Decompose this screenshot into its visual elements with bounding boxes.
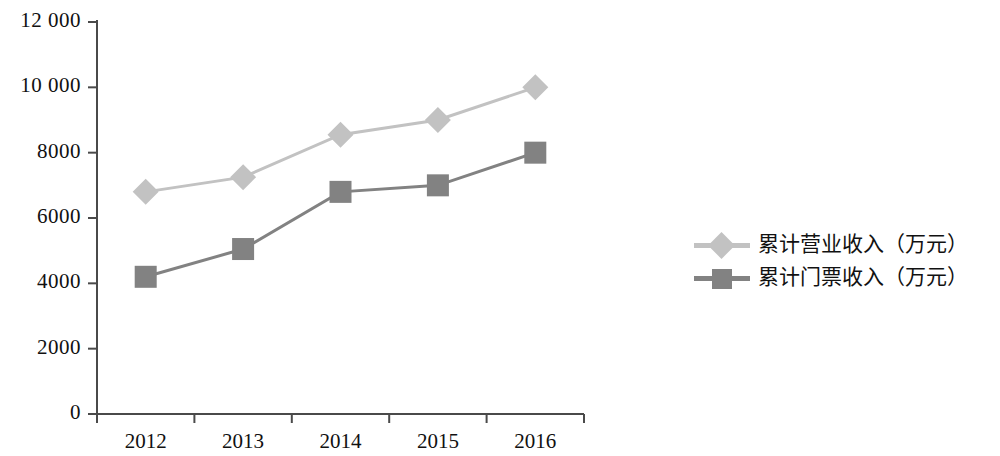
legend-item-0[interactable]: 累计营业收入（万元） bbox=[694, 228, 1000, 261]
chart-legend: 累计营业收入（万元） 累计门票收入（万元） bbox=[694, 228, 1000, 294]
legend-marker-diamond-icon bbox=[694, 232, 750, 258]
line-chart: 0200040006000800010 00012 000 2012201320… bbox=[0, 0, 1000, 456]
series-line-1 bbox=[146, 153, 536, 277]
legend-label-0: 累计营业收入（万元） bbox=[750, 233, 968, 255]
x-axis-ticks bbox=[97, 414, 584, 423]
y-tick-label: 10 000 bbox=[0, 73, 81, 98]
legend-item-1[interactable]: 累计门票收入（万元） bbox=[694, 261, 1000, 294]
data-point-diamond[interactable] bbox=[133, 179, 159, 205]
data-point-diamond[interactable] bbox=[328, 122, 354, 148]
y-tick-label: 8000 bbox=[0, 139, 81, 164]
series-markers bbox=[133, 74, 549, 287]
y-tick-label: 6000 bbox=[0, 204, 81, 229]
data-point-square[interactable] bbox=[232, 238, 254, 260]
y-axis-ticks bbox=[88, 22, 97, 414]
y-tick-label: 12 000 bbox=[0, 8, 81, 33]
y-tick-label: 0 bbox=[0, 400, 81, 425]
data-point-diamond[interactable] bbox=[522, 74, 548, 100]
data-point-square[interactable] bbox=[330, 181, 352, 203]
y-tick-label: 2000 bbox=[0, 335, 81, 360]
legend-label-1: 累计门票收入（万元） bbox=[750, 266, 968, 288]
data-point-diamond[interactable] bbox=[230, 164, 256, 190]
legend-marker-square-icon bbox=[694, 265, 750, 291]
x-tick-label: 2016 bbox=[475, 429, 595, 454]
data-point-square[interactable] bbox=[427, 174, 449, 196]
y-tick-label: 4000 bbox=[0, 269, 81, 294]
data-point-square[interactable] bbox=[524, 142, 546, 164]
data-point-square[interactable] bbox=[135, 266, 157, 288]
data-point-diamond[interactable] bbox=[425, 107, 451, 133]
